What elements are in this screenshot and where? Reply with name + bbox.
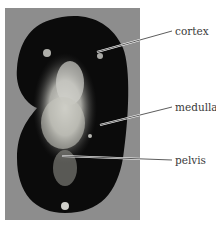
label-medulla: medulla (175, 102, 216, 113)
label-cortex: cortex (175, 26, 209, 37)
label-pelvis: pelvis (175, 155, 206, 166)
